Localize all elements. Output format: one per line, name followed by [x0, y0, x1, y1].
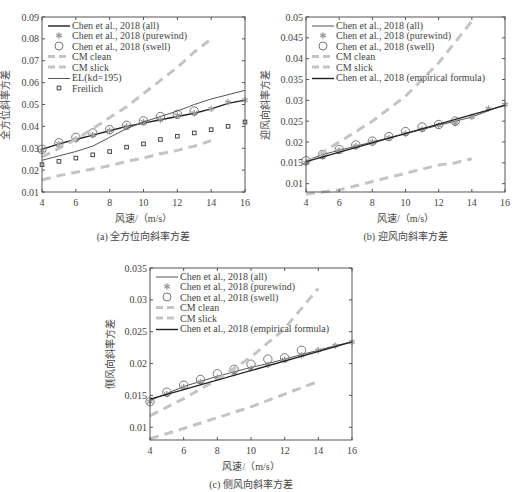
- legend: Chen et al., 2018 (all)Chen et al., 2018…: [156, 271, 329, 336]
- y-tick-label: 0.05: [22, 99, 40, 110]
- legend-label: Chen et al., 2018 (empirical formula): [336, 72, 485, 84]
- series-chen-et-al-2018-empirical-formula: [150, 342, 352, 399]
- plot-area: [38, 39, 248, 180]
- x-tick-label: 14: [206, 197, 216, 208]
- x-tick-label: 14: [313, 445, 323, 456]
- x-axis-label: 风速/（m/s）: [222, 461, 279, 472]
- y-tick-label: 0.025: [281, 116, 304, 127]
- x-tick-label: 6: [181, 445, 186, 456]
- x-tick-label: 12: [280, 445, 290, 456]
- y-tick-label: 0.015: [281, 157, 304, 168]
- x-tick-label: 14: [467, 197, 477, 208]
- y-tick-label: 0.01: [130, 422, 148, 433]
- figure-caption: (b) 迎风向斜率方差: [363, 230, 447, 243]
- legend-item: Chen et al., 2018 (empirical formula): [312, 72, 485, 84]
- y-tick-label: 0.02: [286, 137, 304, 148]
- legend: Chen et al., 2018 (all)Chen et al., 2018…: [48, 20, 187, 94]
- y-tick-label: 0.03: [286, 95, 304, 106]
- y-tick-label: 0.09: [22, 12, 40, 23]
- y-tick-label: 0.03: [22, 143, 40, 154]
- y-tick-label: 0.035: [281, 74, 304, 85]
- y-tick-label: 0.07: [22, 55, 40, 66]
- x-tick-label: 16: [347, 445, 357, 456]
- y-tick-label: 0.04: [22, 121, 40, 132]
- x-tick-label: 4: [40, 197, 45, 208]
- y-axis-label: 迎风向斜率方差: [259, 70, 271, 140]
- y-tick-label: 0.06: [22, 77, 40, 88]
- plot-area: [146, 288, 355, 438]
- x-tick-label: 8: [215, 445, 220, 456]
- legend-label: CM clean: [72, 51, 111, 62]
- x-axis-label: 风速/（m/s）: [115, 213, 172, 224]
- legend-item: CM clean: [156, 302, 219, 313]
- x-tick-label: 10: [139, 197, 149, 208]
- series-cm-clean: [150, 288, 318, 415]
- y-tick-label: 0.015: [125, 390, 148, 401]
- x-tick-label: 10: [246, 445, 256, 456]
- legend-item: Chen et al., 2018 (empirical formula): [156, 323, 329, 335]
- figure-caption: (c) 侧风向斜率方差: [209, 478, 293, 491]
- legend-label: CM clean: [336, 51, 375, 62]
- figure-caption: (a) 全方位向斜率方差: [97, 230, 191, 243]
- x-axis-label: 风速/（m/s）: [377, 213, 434, 224]
- x-tick-label: 16: [240, 197, 250, 208]
- y-tick-label: 0.05: [286, 12, 304, 23]
- legend: Chen et al., 2018 (all)Chen et al., 2018…: [312, 20, 485, 85]
- legend-item: CM slick: [48, 62, 109, 73]
- legend-item: CM clean: [312, 51, 375, 62]
- x-tick-label: 10: [401, 197, 411, 208]
- y-tick-label: 0.03: [130, 294, 148, 305]
- x-tick-label: 12: [434, 197, 444, 208]
- y-tick-label: 0.01: [286, 178, 304, 189]
- legend-item: CM slick: [312, 62, 373, 73]
- legend-label: CM slick: [72, 62, 109, 73]
- y-tick-label: 0.02: [22, 165, 40, 176]
- y-axis-label: 侧风向斜率方差: [104, 319, 116, 389]
- x-tick-label: 6: [73, 197, 78, 208]
- y-axis-label: 全方位斜率方差: [0, 70, 11, 140]
- legend-item: CM slick: [156, 313, 217, 324]
- legend-item: Freilich: [57, 83, 103, 94]
- figure-canvas: 468101214160.010.020.030.040.050.060.070…: [0, 0, 516, 492]
- x-tick-label: 4: [304, 197, 309, 208]
- x-tick-label: 12: [172, 197, 182, 208]
- y-tick-label: 0.08: [22, 33, 40, 44]
- x-tick-label: 16: [500, 197, 510, 208]
- x-tick-label: 4: [148, 445, 153, 456]
- series-cm-slick: [42, 141, 211, 180]
- legend-label: Chen et al., 2018 (empirical formula): [180, 323, 329, 335]
- y-tick-label: 0.01: [22, 187, 40, 198]
- legend-item: CM clean: [48, 51, 111, 62]
- legend-label: CM clean: [180, 302, 219, 313]
- y-tick-label: 0.045: [281, 32, 304, 43]
- series-chen-et-al-2018-empirical-formula: [306, 105, 505, 161]
- x-tick-label: 6: [337, 197, 342, 208]
- x-tick-label: 8: [107, 197, 112, 208]
- series-cm-clean: [42, 39, 211, 157]
- legend-label: Freilich: [72, 83, 103, 94]
- chart-b: 468101214160.010.0150.020.0250.030.0350.…: [259, 12, 510, 244]
- chart-a: 468101214160.010.020.030.040.050.060.070…: [0, 12, 250, 244]
- x-tick-label: 8: [370, 197, 375, 208]
- legend-label: CM slick: [180, 313, 217, 324]
- series-chen-et-al-2018-swell: [146, 346, 306, 406]
- legend-label: CM slick: [336, 62, 373, 73]
- y-tick-label: 0.025: [125, 326, 148, 337]
- chart-c: 468101214160.010.0150.020.0250.030.035侧风…: [104, 263, 357, 492]
- y-tick-label: 0.035: [125, 263, 148, 274]
- y-tick-label: 0.04: [286, 53, 304, 64]
- y-tick-label: 0.02: [130, 358, 148, 369]
- series-cm-slick: [306, 159, 472, 194]
